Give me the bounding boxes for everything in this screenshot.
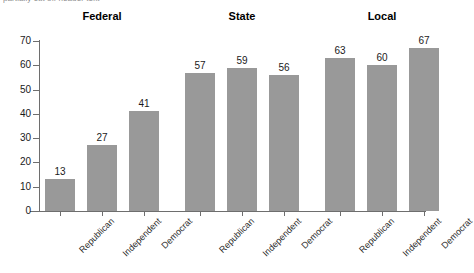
x-axis-tick bbox=[382, 212, 383, 216]
bar bbox=[87, 145, 117, 211]
bar bbox=[409, 48, 439, 211]
x-axis-category-label: Independent bbox=[401, 216, 443, 258]
x-axis-category-label: Republican bbox=[357, 216, 396, 255]
x-axis-category-label: Republican bbox=[77, 216, 116, 255]
x-axis-category-label: Republican bbox=[217, 216, 256, 255]
x-axis-tick bbox=[340, 212, 341, 216]
x-axis-tick bbox=[144, 212, 145, 216]
x-axis-category-label: Democrat bbox=[439, 216, 474, 251]
group-header-local: Local bbox=[332, 9, 432, 23]
y-axis-tick-label: 50 bbox=[3, 85, 31, 95]
plot-area: 132741575956636067 bbox=[39, 41, 426, 211]
y-axis-tick-label: 10 bbox=[3, 182, 31, 192]
bar-group-item: 56 bbox=[269, 41, 299, 211]
bar-group-item: 27 bbox=[87, 41, 117, 211]
cut-off-caption: partially cut off header text bbox=[3, 0, 263, 4]
y-axis-tick-label: 60 bbox=[3, 60, 31, 70]
bar bbox=[227, 68, 257, 211]
y-axis-tick-label: 30 bbox=[3, 133, 31, 143]
x-axis-tick bbox=[200, 212, 201, 216]
bar bbox=[45, 179, 75, 211]
bar-group-item: 13 bbox=[45, 41, 75, 211]
bar-value-label: 13 bbox=[40, 166, 80, 177]
x-axis-tick bbox=[284, 212, 285, 216]
x-axis-tick bbox=[60, 212, 61, 216]
y-axis-tick bbox=[33, 211, 39, 212]
x-axis-tick bbox=[102, 212, 103, 216]
bar bbox=[185, 73, 215, 211]
bar bbox=[129, 111, 159, 211]
bar-group-item: 67 bbox=[409, 41, 439, 211]
group-header-row: FederalStateLocal bbox=[0, 9, 426, 25]
y-axis-tick-label: 40 bbox=[3, 109, 31, 119]
bar-group-item: 60 bbox=[367, 41, 397, 211]
bar-group-item: 59 bbox=[227, 41, 257, 211]
bar bbox=[269, 75, 299, 211]
x-axis-tick bbox=[424, 212, 425, 216]
y-axis-tick-label: 70 bbox=[3, 36, 31, 46]
bar-value-label: 67 bbox=[404, 35, 444, 46]
bar bbox=[325, 58, 355, 211]
bar-group-item: 41 bbox=[129, 41, 159, 211]
bar-group-item: 57 bbox=[185, 41, 215, 211]
y-axis-tick-label: 0 bbox=[3, 206, 31, 216]
x-axis-category-label: Independent bbox=[261, 216, 303, 258]
x-axis-category-label: Democrat bbox=[299, 216, 334, 251]
x-axis-tick bbox=[242, 212, 243, 216]
bar-value-label: 27 bbox=[82, 132, 122, 143]
y-axis-tick-label: 20 bbox=[3, 157, 31, 167]
bar-value-label: 41 bbox=[124, 98, 164, 109]
x-axis-line bbox=[30, 211, 426, 212]
bar-value-label: 63 bbox=[320, 45, 360, 56]
group-header-state: State bbox=[192, 9, 292, 23]
bar-value-label: 59 bbox=[222, 55, 262, 66]
bar bbox=[367, 65, 397, 211]
x-axis-category-label: Democrat bbox=[159, 216, 194, 251]
group-header-federal: Federal bbox=[52, 9, 152, 23]
bar-value-label: 60 bbox=[362, 52, 402, 63]
bar-group-item: 63 bbox=[325, 41, 355, 211]
bar-value-label: 57 bbox=[180, 60, 220, 71]
x-axis-category-label: Independent bbox=[121, 216, 163, 258]
bar-value-label: 56 bbox=[264, 62, 304, 73]
